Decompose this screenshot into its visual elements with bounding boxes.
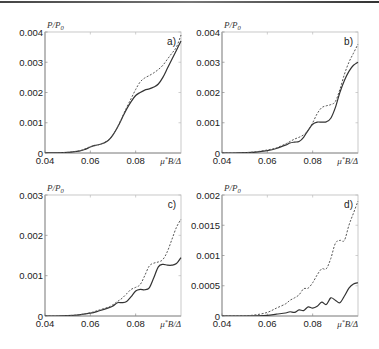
- y-tick-label: 0.003: [19, 190, 43, 201]
- x-tick-label: 0.04: [213, 318, 232, 329]
- y-tick-label: 0.003: [19, 57, 43, 68]
- x-tick-label: 0.04: [213, 155, 232, 166]
- x-tick-label: 0.08: [303, 155, 322, 166]
- y-tick-label: 0.004: [19, 27, 43, 38]
- x-tick-label: 0.06: [258, 155, 277, 166]
- panel-label: b): [344, 36, 353, 47]
- panel-label: d): [344, 199, 353, 210]
- x-tick-label: 0.04: [36, 155, 55, 166]
- x-tick-label: 0.06: [81, 155, 100, 166]
- x-tick-label: 0.06: [81, 318, 100, 329]
- y-axis-label: P/P0: [223, 20, 242, 31]
- x-tick-label: 0.04: [36, 318, 55, 329]
- panel-label: c): [168, 199, 176, 210]
- y-tick-label: 0.002: [196, 87, 220, 98]
- y-axis-label: P/P0: [223, 183, 242, 194]
- y-tick-label: 0.001: [196, 117, 220, 128]
- y-tick-label: 0.002: [196, 190, 220, 201]
- y-tick-label: 0.004: [196, 27, 220, 38]
- subplot-b: 00.0010.0020.0030.0040.040.060.08P/P0μ*B…: [196, 20, 358, 166]
- y-tick-label: 0.001: [19, 270, 43, 281]
- x-tick-label: 0.08: [126, 318, 145, 329]
- x-axis-label: μ*B/Δ: [336, 319, 358, 329]
- y-tick-label: 0.002: [19, 87, 43, 98]
- x-tick-label: 0.06: [258, 318, 277, 329]
- plot-frame: [45, 195, 181, 316]
- x-axis-label: μ*B/Δ: [336, 156, 358, 166]
- x-tick-label: 0.08: [126, 155, 145, 166]
- plot-frame: [222, 195, 358, 316]
- y-tick-label: 0.0005: [191, 280, 220, 291]
- y-tick-label: 0.0015: [191, 220, 220, 231]
- figure-svg: 00.0010.0020.0030.0040.040.060.08P/P0μ*B…: [0, 0, 379, 349]
- y-tick-label: 0.001: [196, 250, 220, 261]
- y-axis-label: P/P0: [46, 183, 65, 194]
- y-tick-label: 0.002: [19, 230, 43, 241]
- subplot-c: 00.0010.0020.0030.040.060.08P/P0μ*B/Δc): [19, 183, 181, 329]
- x-axis-label: μ*B/Δ: [159, 156, 181, 166]
- subplot-a: 00.0010.0020.0030.0040.040.060.08P/P0μ*B…: [19, 20, 181, 166]
- y-tick-label: 0.001: [19, 117, 43, 128]
- x-axis-label: μ*B/Δ: [159, 319, 181, 329]
- plot-frame: [222, 32, 358, 153]
- panel-label: a): [167, 36, 176, 47]
- y-tick-label: 0.003: [196, 57, 220, 68]
- x-tick-label: 0.08: [303, 318, 322, 329]
- subplot-d: 00.00050.0010.00150.0020.040.060.08P/P0μ…: [191, 183, 358, 329]
- y-axis-label: P/P0: [46, 20, 65, 31]
